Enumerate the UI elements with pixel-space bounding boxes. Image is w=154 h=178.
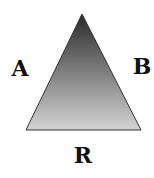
triangle-diagram: A B R [0,0,154,178]
label-a: A [10,55,29,81]
triangle-shape [26,14,141,130]
label-r: R [74,142,93,168]
label-b: B [133,53,152,79]
